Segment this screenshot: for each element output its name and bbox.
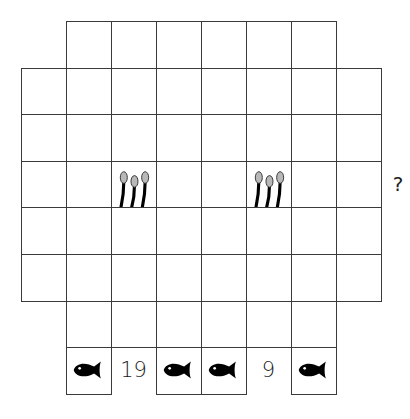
grid-cell-r2-c6[interactable] — [291, 114, 337, 162]
grid-cell-r2-c7[interactable] — [336, 114, 382, 162]
grid-cell-r6-c4[interactable] — [201, 301, 247, 349]
grid-cell-r6-c1[interactable] — [66, 301, 112, 349]
grid-cell-r4-c4[interactable] — [201, 207, 247, 255]
fish-icon — [72, 359, 106, 381]
grid-cell-r5-c0[interactable] — [21, 254, 67, 302]
grid-cell-r2-c5[interactable] — [246, 114, 292, 162]
cattails-icon — [112, 162, 156, 208]
side-clue-question-mark: ? — [388, 161, 408, 208]
puzzle-board: 19 9 ? — [0, 0, 410, 419]
clue-number-c2: 19 — [111, 347, 156, 394]
clue-cell-c3 — [156, 347, 202, 395]
grid-cell-r3-c0[interactable] — [21, 161, 67, 209]
grid-cell-r0-c1[interactable] — [66, 21, 112, 69]
fish-icon — [297, 359, 331, 381]
grid-cell-r2-c1[interactable] — [66, 114, 112, 162]
grid-cell-r1-c3[interactable] — [156, 68, 202, 116]
grid-cell-r2-c4[interactable] — [201, 114, 247, 162]
grid-cell-r6-c2[interactable] — [111, 301, 157, 349]
grid-cell-r5-c3[interactable] — [156, 254, 202, 302]
cattails-icon — [247, 162, 291, 208]
grid-cell-r5-c7[interactable] — [336, 254, 382, 302]
grid-cell-r6-c3[interactable] — [156, 301, 202, 349]
grid-cell-r4-c0[interactable] — [21, 207, 67, 255]
grid-cell-r1-c5[interactable] — [246, 68, 292, 116]
grid-cell-r3-c4[interactable] — [201, 161, 247, 209]
grid-cell-r1-c2[interactable] — [111, 68, 157, 116]
grid-cell-r6-c5[interactable] — [246, 301, 292, 349]
grid-cell-r1-c4[interactable] — [201, 68, 247, 116]
fish-icon — [207, 359, 241, 381]
grid-cell-r4-c3[interactable] — [156, 207, 202, 255]
grid-cell-r4-c2[interactable] — [111, 207, 157, 255]
grid-cell-r0-c2[interactable] — [111, 21, 157, 69]
grid-cell-r3-c6[interactable] — [291, 161, 337, 209]
grid-cell-r2-c2[interactable] — [111, 114, 157, 162]
grid-cell-r0-c4[interactable] — [201, 21, 247, 69]
grid-cell-r3-c3[interactable] — [156, 161, 202, 209]
grid-cell-r0-c3[interactable] — [156, 21, 202, 69]
grid-cell-r5-c4[interactable] — [201, 254, 247, 302]
grid-cell-r1-c6[interactable] — [291, 68, 337, 116]
grid-cell-r4-c1[interactable] — [66, 207, 112, 255]
grid-cell-r1-c7[interactable] — [336, 68, 382, 116]
grid-cell-r2-c3[interactable] — [156, 114, 202, 162]
grid-cell-r4-c5[interactable] — [246, 207, 292, 255]
grid-cell-r0-c6[interactable] — [291, 21, 337, 69]
clue-cell-c1 — [66, 347, 112, 395]
clue-number-c5: 9 — [246, 347, 291, 394]
grid-cell-r6-c6[interactable] — [291, 301, 337, 349]
fish-icon — [162, 359, 196, 381]
grid-cell-r5-c5[interactable] — [246, 254, 292, 302]
grid-cell-r2-c0[interactable] — [21, 114, 67, 162]
grid-cell-r1-c0[interactable] — [21, 68, 67, 116]
grid-cell-r4-c6[interactable] — [291, 207, 337, 255]
grid-cell-r0-c5[interactable] — [246, 21, 292, 69]
grid-cell-r5-c1[interactable] — [66, 254, 112, 302]
grid-cell-r3-c1[interactable] — [66, 161, 112, 209]
grid-cell-r4-c7[interactable] — [336, 207, 382, 255]
grid-cell-r5-c2[interactable] — [111, 254, 157, 302]
grid-cell-r3-c7[interactable] — [336, 161, 382, 209]
clue-cell-c6 — [291, 347, 337, 395]
grid-cell-r5-c6[interactable] — [291, 254, 337, 302]
grid-cell-r1-c1[interactable] — [66, 68, 112, 116]
clue-cell-c4 — [201, 347, 247, 395]
